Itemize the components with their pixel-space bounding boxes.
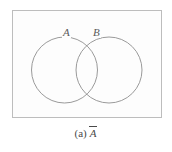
venn-drawing-area: A B bbox=[0, 0, 172, 122]
caption-expression-complement-a: A bbox=[89, 126, 98, 139]
caption-index: (a) bbox=[75, 127, 87, 139]
venn-diagram-figure: A B (a)A bbox=[0, 0, 172, 152]
figure-caption: (a)A bbox=[0, 126, 172, 140]
venn-svg bbox=[0, 0, 172, 122]
universal-set-rectangle bbox=[13, 11, 162, 118]
set-a-label: A bbox=[62, 27, 71, 38]
set-b-label: B bbox=[92, 27, 101, 38]
